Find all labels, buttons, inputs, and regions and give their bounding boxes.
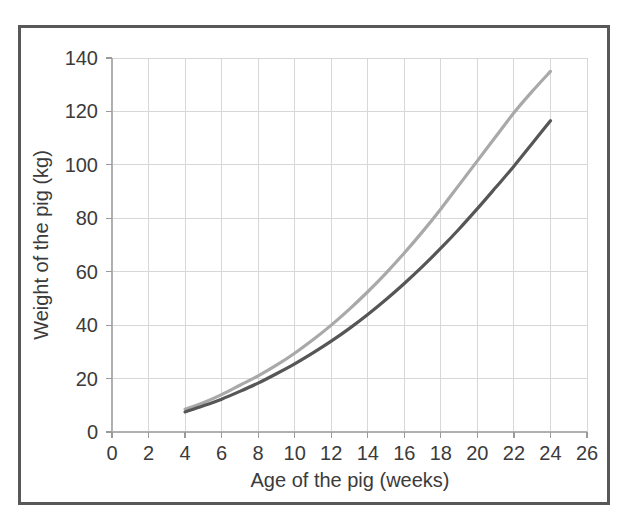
y-tick-label: 80: [76, 207, 98, 229]
x-tick-label: 10: [284, 442, 306, 464]
x-axis-title: Age of the pig (weeks): [251, 469, 450, 491]
axis-lines: [112, 58, 587, 432]
x-tick-label: 4: [180, 442, 191, 464]
x-tick-label: 2: [143, 442, 154, 464]
y-tick-label: 20: [76, 368, 98, 390]
gridlines: [112, 58, 587, 432]
x-tick-label: 26: [576, 442, 598, 464]
y-tick-label: 40: [76, 314, 98, 336]
x-tick-label: 8: [253, 442, 264, 464]
x-tick-label: 14: [357, 442, 379, 464]
x-tick-label: 12: [320, 442, 342, 464]
y-tick-label: 60: [76, 261, 98, 283]
x-tick-label: 6: [216, 442, 227, 464]
tick-marks: [106, 58, 587, 438]
y-tick-label: 140: [65, 47, 98, 69]
y-tick-label: 0: [87, 421, 98, 443]
y-axis-title: Weight of the pig (kg): [30, 150, 52, 340]
pig-growth-line-chart: 0246810121416182022242602040608010012014…: [0, 0, 625, 519]
x-tick-label: 22: [503, 442, 525, 464]
y-tick-label: 100: [65, 154, 98, 176]
x-tick-label: 20: [466, 442, 488, 464]
x-tick-label: 18: [430, 442, 452, 464]
y-tick-label: 120: [65, 100, 98, 122]
x-tick-label: 24: [539, 442, 561, 464]
figure-container: 0246810121416182022242602040608010012014…: [0, 0, 625, 519]
x-tick-label: 0: [106, 442, 117, 464]
x-tick-label: 16: [393, 442, 415, 464]
